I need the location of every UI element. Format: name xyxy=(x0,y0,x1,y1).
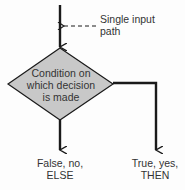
annotation-line-2: path xyxy=(100,25,155,37)
decision-condition-label: Condition on which decision is made xyxy=(18,67,104,103)
true-branch-label: True, yes, THEN xyxy=(120,157,185,181)
true-arrow xyxy=(113,83,156,150)
annotation-line-1: Single input xyxy=(100,13,155,25)
true-line-1: True, yes, xyxy=(120,157,185,169)
condition-line-2: which decision xyxy=(18,79,104,91)
single-input-path-label: Single input path xyxy=(100,13,155,37)
false-line-2: ELSE xyxy=(25,169,95,181)
true-line-2: THEN xyxy=(120,169,185,181)
false-branch-label: False, no, ELSE xyxy=(25,157,95,181)
false-line-1: False, no, xyxy=(25,157,95,169)
condition-line-1: Condition on xyxy=(18,67,104,79)
decision-flowchart: Single input path Condition on which dec… xyxy=(0,0,185,190)
condition-line-3: is made xyxy=(18,91,104,103)
